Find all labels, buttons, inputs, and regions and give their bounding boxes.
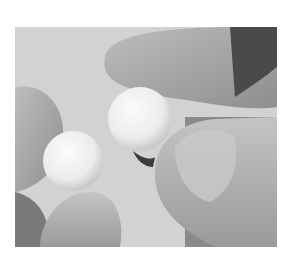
sphere-left — [43, 131, 103, 191]
photograph — [15, 27, 277, 247]
photo-scene — [15, 27, 277, 247]
sphere-right — [108, 87, 172, 151]
